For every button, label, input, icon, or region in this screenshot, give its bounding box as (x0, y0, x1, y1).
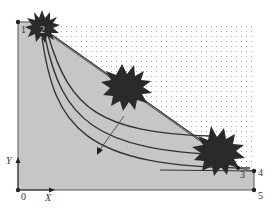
point-5 (252, 188, 256, 192)
label-point-5: 5 (258, 190, 263, 201)
y-axis-label: Y (6, 155, 13, 166)
label-point-1: 1 (21, 24, 26, 35)
diagram-canvas: 1 2 0 3 4 5 X Y (0, 0, 277, 220)
label-point-0: 0 (21, 191, 26, 202)
label-point-4: 4 (258, 167, 263, 178)
point-1 (16, 20, 20, 24)
label-point-2: 2 (40, 24, 45, 35)
label-point-3: 3 (240, 169, 245, 180)
x-axis-label: X (44, 192, 52, 203)
point-4 (252, 169, 256, 173)
